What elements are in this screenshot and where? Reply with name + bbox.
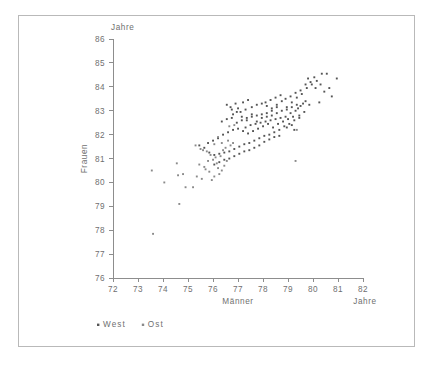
x-tick-label: 77 <box>233 285 243 294</box>
data-point <box>263 141 265 143</box>
data-point <box>295 110 297 112</box>
data-point <box>213 143 215 145</box>
data-point <box>295 92 297 94</box>
axes-group: 7677787980818283848586727374757677787980… <box>80 23 377 306</box>
data-point <box>221 170 223 172</box>
data-point <box>286 109 288 111</box>
data-point <box>228 158 230 160</box>
data-point <box>221 142 223 144</box>
data-point <box>232 142 234 144</box>
data-point <box>195 144 197 146</box>
data-point <box>212 159 214 161</box>
data-point <box>313 76 315 78</box>
data-point <box>208 152 210 154</box>
data-point <box>207 160 209 162</box>
data-point <box>331 95 333 97</box>
data-point <box>227 131 229 133</box>
data-point <box>308 104 310 106</box>
series-west <box>198 73 337 166</box>
data-point <box>286 106 288 108</box>
data-point <box>296 97 298 99</box>
data-point <box>230 106 232 108</box>
data-point <box>302 103 304 105</box>
data-point <box>248 149 250 151</box>
data-point <box>323 91 325 93</box>
data-point <box>275 118 277 120</box>
data-point <box>301 93 303 95</box>
data-point <box>216 162 218 164</box>
data-point <box>178 203 180 205</box>
data-point <box>236 122 238 124</box>
x-tick-label: 80 <box>308 285 318 294</box>
data-point <box>256 104 258 106</box>
data-point <box>245 127 247 129</box>
data-point <box>265 121 267 123</box>
data-point <box>242 130 244 132</box>
scatter-plot: 7677787980818283848586727374757677787980… <box>19 16 416 348</box>
data-point <box>228 150 230 152</box>
x-tick-label: 74 <box>158 285 168 294</box>
data-point <box>212 140 214 142</box>
data-point <box>250 124 252 126</box>
data-point <box>295 160 297 162</box>
data-point <box>270 119 272 121</box>
x-tick-label: 82 <box>358 285 368 294</box>
data-point <box>182 173 184 175</box>
data-point <box>272 127 274 129</box>
data-point <box>291 124 293 126</box>
data-point <box>220 155 222 157</box>
data-point <box>276 104 278 106</box>
y-tick-label: 78 <box>95 226 105 235</box>
data-point <box>240 111 242 113</box>
data-point <box>206 150 208 152</box>
data-point <box>273 131 275 133</box>
data-point <box>241 119 243 121</box>
data-point <box>320 84 322 86</box>
data-point <box>291 106 293 108</box>
data-point <box>230 144 232 146</box>
data-point <box>280 94 282 96</box>
data-point <box>218 161 220 163</box>
data-point <box>233 155 235 157</box>
x-unit-label-text: Jahre <box>353 297 376 306</box>
data-point <box>218 153 220 155</box>
data-point <box>305 100 307 102</box>
data-point <box>298 117 300 119</box>
data-point <box>236 111 238 113</box>
data-point <box>200 148 202 150</box>
y-tick-label: 82 <box>95 131 105 140</box>
data-point <box>261 117 263 119</box>
data-point <box>266 116 268 118</box>
data-point <box>280 117 282 119</box>
y-unit-label-text: Jahre <box>111 23 134 32</box>
x-tick-label: 75 <box>183 285 193 294</box>
data-point <box>288 123 290 125</box>
data-point <box>232 129 234 131</box>
data-point <box>233 148 235 150</box>
y-tick-label: 86 <box>95 35 105 44</box>
data-point <box>251 116 253 118</box>
data-point <box>282 121 284 123</box>
data-point <box>218 173 220 175</box>
x-tick-label: 73 <box>133 285 143 294</box>
data-point <box>241 116 243 118</box>
data-point <box>276 106 278 108</box>
y-tick-label: 84 <box>95 83 105 92</box>
data-point <box>213 154 215 156</box>
data-point <box>286 127 288 129</box>
data-point <box>238 153 240 155</box>
data-point <box>256 121 258 123</box>
data-point <box>256 115 258 117</box>
data-point <box>287 118 289 120</box>
data-point <box>215 156 217 158</box>
data-point <box>185 186 187 188</box>
data-point <box>311 84 313 86</box>
data-point <box>205 168 207 170</box>
data-point <box>198 164 200 166</box>
data-point <box>255 123 257 125</box>
data-point <box>253 140 255 142</box>
y-axis-title: Frauen <box>80 144 89 174</box>
data-point <box>226 104 228 106</box>
data-point <box>290 112 292 114</box>
data-point <box>231 109 233 111</box>
